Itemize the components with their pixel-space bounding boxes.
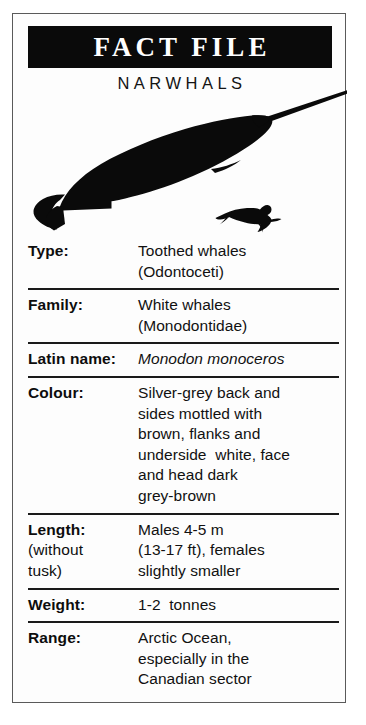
fact-label: Family:: [28, 295, 138, 316]
fact-label-text: Length:: [28, 520, 138, 541]
fact-label-subtext: (without: [28, 540, 138, 561]
fact-table: Type:Toothed whales(Odontoceti)Family:Wh…: [28, 237, 339, 696]
fact-value: 1-2 tonnes: [138, 595, 339, 616]
fact-value-line: Arctic Ocean,: [138, 628, 339, 649]
fact-value-line: Males 4-5 m: [138, 520, 339, 541]
fact-label: Weight:: [28, 595, 138, 616]
fact-label-text: Colour:: [28, 383, 138, 404]
fact-value: Males 4-5 m(13-17 ft), femalesslightly s…: [138, 520, 339, 582]
fact-value-line: slightly smaller: [138, 561, 339, 582]
narwhal-illustration: [13, 76, 347, 238]
fact-value: White whales(Monodontidae): [138, 295, 339, 336]
fact-label-text: Latin name:: [28, 349, 138, 370]
fact-value-line: Canadian sector: [138, 669, 339, 690]
fact-value-line: sides mottled with: [138, 404, 339, 425]
fact-value: Monodon monoceros: [138, 349, 339, 370]
fact-value-line: Toothed whales: [138, 241, 339, 262]
table-row: Weight:1-2 tonnes: [28, 588, 339, 622]
fact-file-card: FACT FILE NARWHALS: [12, 13, 346, 703]
fact-value-line: Monodon monoceros: [138, 349, 339, 370]
fact-label-text: Weight:: [28, 595, 138, 616]
title-banner: FACT FILE: [28, 26, 332, 68]
fact-value-line: 1-2 tonnes: [138, 595, 339, 616]
fact-value-line: (Monodontidae): [138, 316, 339, 337]
table-row: Range:Arctic Ocean,especially in theCana…: [28, 621, 339, 696]
fact-value-line: underside white, face: [138, 445, 339, 466]
fact-label: Latin name:: [28, 349, 138, 370]
page-title: FACT FILE: [90, 34, 271, 61]
fact-value: Toothed whales(Odontoceti): [138, 241, 339, 282]
fact-label-text: Type:: [28, 241, 138, 262]
fact-label-text: Range:: [28, 628, 138, 649]
fact-value: Silver-grey back andsides mottled withbr…: [138, 383, 339, 507]
fact-label: Type:: [28, 241, 138, 262]
table-row: Type:Toothed whales(Odontoceti): [28, 237, 339, 288]
fact-value-line: brown, flanks and: [138, 424, 339, 445]
fact-value-line: (Odontoceti): [138, 262, 339, 283]
table-row: Length:(withouttusk)Males 4-5 m(13-17 ft…: [28, 513, 339, 588]
fact-label-subtext: tusk): [28, 561, 138, 582]
fact-label: Range:: [28, 628, 138, 649]
fact-value-line: and head dark: [138, 465, 339, 486]
table-row: Latin name:Monodon monoceros: [28, 342, 339, 376]
fact-label-text: Family:: [28, 295, 138, 316]
fact-value-line: (13-17 ft), females: [138, 540, 339, 561]
fact-value: Arctic Ocean,especially in theCanadian s…: [138, 628, 339, 690]
table-row: Colour:Silver-grey back andsides mottled…: [28, 376, 339, 513]
fact-value-line: White whales: [138, 295, 339, 316]
fact-value-line: Silver-grey back and: [138, 383, 339, 404]
fact-label: Colour:: [28, 383, 138, 404]
fact-value-line: grey-brown: [138, 486, 339, 507]
diver-silhouette: [216, 205, 282, 233]
narwhal-silhouette: [33, 90, 347, 231]
fact-value-line: especially in the: [138, 649, 339, 670]
table-row: Family:White whales(Monodontidae): [28, 288, 339, 342]
fact-label: Length:(withouttusk): [28, 520, 138, 582]
